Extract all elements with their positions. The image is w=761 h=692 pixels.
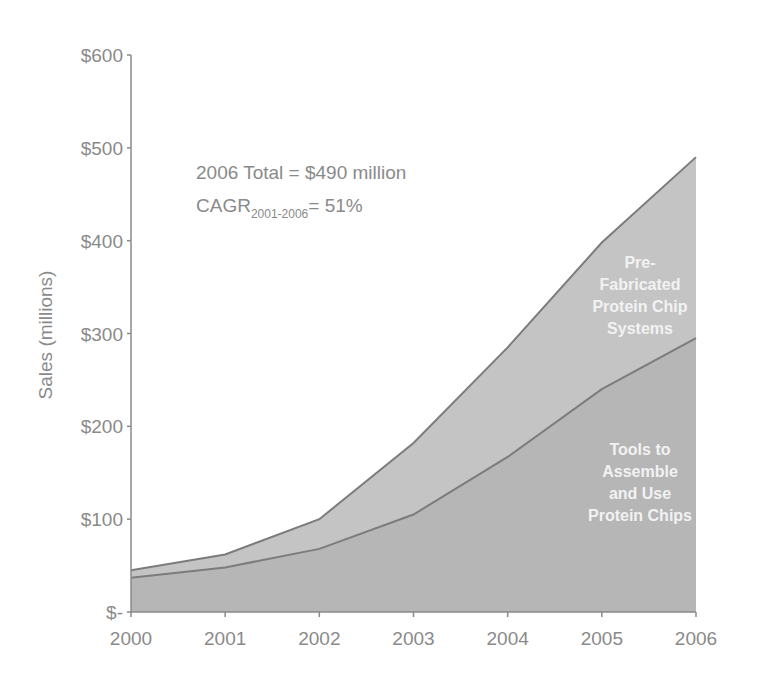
x-tick-label: 2005 [581, 628, 623, 649]
x-ticks: 2000200120022003200420052006 [110, 612, 717, 649]
cagr-subscript: 2001-2006 [251, 207, 309, 221]
x-tick-label: 2004 [487, 628, 530, 649]
y-tick-label: $100 [81, 509, 123, 530]
x-tick-label: 2002 [298, 628, 340, 649]
y-tick-label: $500 [81, 138, 123, 159]
y-tick-label: $600 [81, 45, 123, 66]
x-tick-label: 2006 [675, 628, 717, 649]
area-label-line: Assemble [602, 463, 678, 480]
y-axis-title: Sales (millions) [35, 271, 56, 400]
x-tick-label: 2000 [110, 628, 152, 649]
x-tick-label: 2001 [204, 628, 246, 649]
area-label-line: Fabricated [600, 276, 681, 293]
y-tick-label: $- [106, 602, 123, 623]
area-label-line: and Use [609, 485, 671, 502]
area-label-line: Systems [607, 320, 673, 337]
cagr-value: = 51% [308, 195, 363, 216]
total-annotation: 2006 Total = $490 million [196, 162, 406, 183]
area-label-line: Tools to [609, 441, 670, 458]
y-ticks: $-$100$200$300$400$500$600 [81, 45, 131, 623]
y-tick-label: $300 [81, 324, 123, 345]
x-tick-label: 2003 [392, 628, 434, 649]
stacked-area-chart: $-$100$200$300$400$500$600 2000200120022… [0, 0, 761, 692]
cagr-annotation: CAGR2001-2006= 51% [196, 195, 363, 221]
area-label-line: Protein Chip [592, 298, 687, 315]
cagr-label: CAGR [196, 195, 251, 216]
area-label-line: Protein Chips [588, 507, 692, 524]
y-tick-label: $400 [81, 231, 123, 252]
area-label-line: Pre- [624, 254, 655, 271]
y-tick-label: $200 [81, 416, 123, 437]
